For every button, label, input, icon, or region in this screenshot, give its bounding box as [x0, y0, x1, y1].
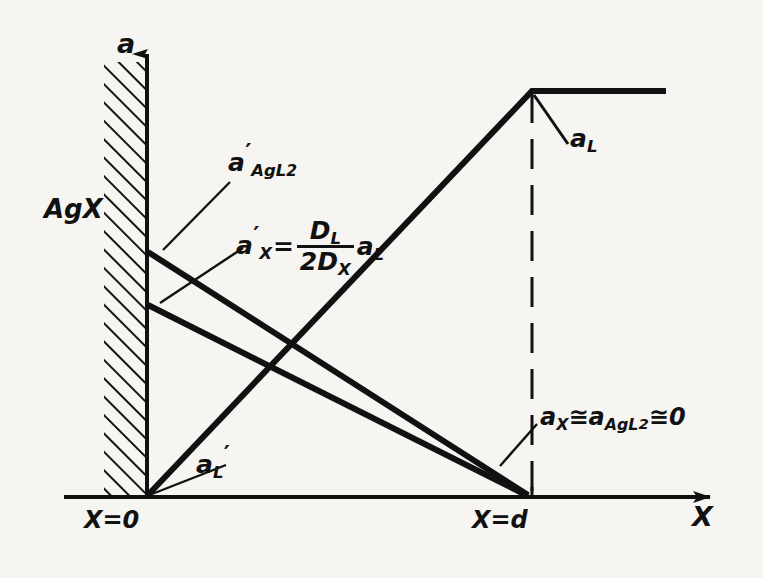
formula-denominator-sub: X: [338, 260, 351, 279]
zero-note-second-base: a: [589, 403, 605, 431]
x-axis-label: X: [692, 503, 713, 530]
formula-lhs: a′X: [236, 233, 272, 259]
formula-rhs-base: a: [357, 232, 374, 261]
figure-canvas: a X AgX X=0 X=d aL aL′ a′AgL2 a′X= DL 2D…: [0, 0, 763, 578]
curve-label-a-L-base: a: [570, 124, 587, 153]
curve-label-a-AgL2-prime: a′AgL2: [228, 150, 297, 176]
tick-label-x-d: X=d: [472, 508, 528, 532]
zero-note-first-sub: X: [556, 415, 568, 434]
annotation-zero-activity: aX≅aAgL2≅0: [540, 405, 686, 429]
zero-note-value: 0: [669, 403, 686, 431]
zero-note-first-base: a: [540, 403, 556, 431]
curve-label-a-L-prime-sub: L: [213, 463, 224, 482]
zero-note-second-sub: AgL: [605, 415, 639, 434]
formula-denominator-base: D: [317, 247, 338, 276]
formula-numerator-sub: L: [330, 229, 341, 248]
leader-a-X-prime: [160, 248, 243, 303]
formula-a-x-prime: a′X= DL 2DX aL: [236, 218, 384, 274]
curve-label-a-L-sub: L: [587, 137, 598, 156]
curve-label-a-AgL2-subsub: 2: [286, 162, 297, 180]
curve-label-a-L: aL: [570, 126, 597, 151]
formula-denominator: 2DX: [297, 248, 354, 275]
formula-denominator-prefix: 2: [300, 247, 317, 276]
formula-equals: =: [273, 234, 294, 259]
formula-lhs-sub: X: [259, 244, 272, 263]
hatched-agx-region: [104, 62, 145, 497]
formula-numerator-base: D: [310, 216, 331, 245]
formula-numerator: DL: [307, 218, 344, 245]
formula-rhs: aL: [357, 234, 384, 259]
formula-fraction: DL 2DX: [297, 218, 354, 274]
curve-label-a-AgL2-base: a: [228, 148, 245, 177]
zero-note-approx-1: ≅: [568, 403, 588, 431]
leader-a-L: [534, 95, 568, 144]
curve-label-a-L-prime: aL′: [196, 452, 230, 478]
zero-note-second-subsub: 2: [638, 415, 648, 433]
curve-label-a-L-prime-mark: ′: [224, 440, 230, 468]
curve-label-a-AgL2-sub: AgL: [251, 161, 286, 180]
zero-note-approx-2: ≅: [649, 403, 669, 431]
formula-rhs-sub: L: [374, 245, 385, 264]
curve-label-a-L-prime-base: a: [196, 450, 213, 479]
phase-label-agx: AgX: [44, 196, 103, 222]
diagram-svg: [0, 0, 763, 578]
formula-lhs-base: a: [236, 231, 253, 260]
y-axis-label: a: [117, 30, 135, 57]
leader-a-AgL2-prime: [163, 182, 230, 250]
tick-label-x-zero: X=0: [84, 508, 139, 532]
